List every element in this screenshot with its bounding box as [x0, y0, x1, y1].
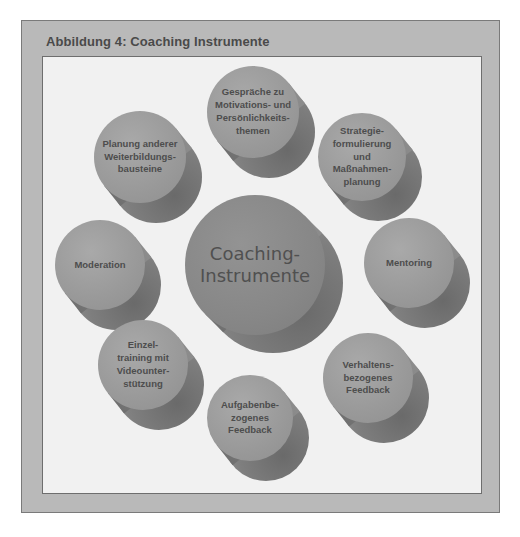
node-gespraeche: Gespräche zu Motivations- und Persönlich…	[207, 66, 315, 178]
node-label: Aufgabenbe- zogenes Feedback	[221, 399, 279, 437]
cylinder-face: Aufgabenbe- zogenes Feedback	[207, 375, 293, 461]
figure-title: Abbildung 4: Coaching Instrumente	[46, 34, 270, 49]
node-mentoring: Mentoring	[364, 218, 470, 328]
node-moderation: Moderation	[55, 220, 161, 330]
node-label: Moderation	[74, 259, 125, 272]
node-label: Planung anderer Weiterbildungs- baustein…	[103, 138, 178, 176]
cylinder-face: Mentoring	[364, 218, 454, 308]
node-label: Einzel- training mit Videounter- stützun…	[117, 339, 170, 390]
cylinder-face: Moderation	[55, 220, 145, 310]
node-label: Verhaltens- bezogenes Feedback	[342, 359, 393, 397]
cylinder-face: Planung anderer Weiterbildungs- baustein…	[94, 111, 186, 203]
cylinder-face: Einzel- training mit Videounter- stützun…	[98, 320, 188, 410]
cylinder-face: Coaching- Instrumente	[185, 195, 325, 335]
node-label: Coaching- Instrumente	[200, 243, 310, 288]
node-label: Mentoring	[386, 257, 432, 270]
cylinder-face: Strategie- formulierung und Maßnahmen- p…	[318, 113, 406, 201]
node-label: Gespräche zu Motivations- und Persönlich…	[215, 86, 291, 137]
node-label: Strategie- formulierung und Maßnahmen- p…	[333, 125, 392, 189]
cylinder-face: Gespräche zu Motivations- und Persönlich…	[207, 66, 299, 158]
center-node: Coaching- Instrumente	[185, 195, 343, 353]
node-aufgaben: Aufgabenbe- zogenes Feedback	[207, 375, 309, 481]
